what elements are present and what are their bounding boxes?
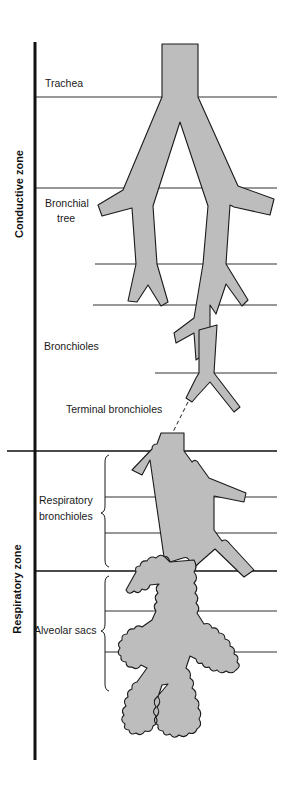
trachea-shape	[98, 44, 274, 360]
respiratory-bronchioles-brace	[101, 455, 109, 567]
dashed-connector	[171, 402, 188, 436]
alveolar-sacs-brace	[101, 576, 109, 691]
terminal-bronchioles-label: Terminal bronchioles	[66, 403, 162, 416]
airway-diagram	[0, 0, 289, 787]
alveolar-sacs-shape	[118, 555, 239, 737]
alveolar-sacs-label: Alveolar sacs	[34, 624, 96, 637]
respiratory-zone-label: Respiratory zone	[11, 537, 23, 641]
respiratory-bronchioles-label-line2: bronchioles	[39, 510, 93, 523]
bronchioles-label: Bronchioles	[44, 340, 99, 353]
respiratory-bronchioles-label-line1: Respiratory	[39, 494, 93, 507]
respiratory-bronchiole-shape	[132, 433, 254, 577]
bronchial-tree-label-line1: Bronchial	[45, 197, 89, 210]
conductive-zone-label: Conductive zone	[13, 144, 25, 244]
trachea-label: Trachea	[45, 77, 83, 90]
bronchial-tree-label-line2: tree	[57, 212, 75, 225]
